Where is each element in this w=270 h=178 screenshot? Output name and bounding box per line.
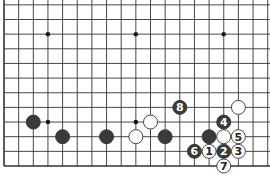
move-number-label: 8 <box>176 101 184 114</box>
move-number-label: 3 <box>235 145 243 158</box>
white-stone <box>231 100 245 114</box>
white-stone <box>129 130 143 144</box>
star-point <box>222 32 226 36</box>
black-stone <box>202 130 216 144</box>
move-number-label: 4 <box>220 116 228 129</box>
black-stone <box>158 130 172 144</box>
black-stone <box>56 130 70 144</box>
star-point <box>46 32 50 36</box>
go-board: 84561237 <box>0 0 270 178</box>
move-number-label: 6 <box>191 145 199 158</box>
white-stone <box>217 130 231 144</box>
move-number-label: 7 <box>220 160 228 173</box>
move-number-label: 5 <box>235 131 243 144</box>
move-number-label: 1 <box>205 145 213 158</box>
star-point <box>134 32 138 36</box>
white-stone <box>144 115 158 129</box>
star-point <box>46 120 50 124</box>
star-point <box>134 120 138 124</box>
black-stone <box>26 115 40 129</box>
move-number-label: 2 <box>220 145 228 158</box>
black-stone <box>100 130 114 144</box>
